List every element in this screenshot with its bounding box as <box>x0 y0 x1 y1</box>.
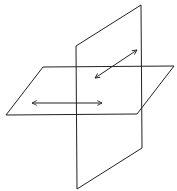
horizontal-plane <box>6 66 174 115</box>
vertical-plane <box>76 5 142 189</box>
diagonal-double-arrow <box>95 50 137 78</box>
intersecting-planes-diagram <box>0 0 177 191</box>
